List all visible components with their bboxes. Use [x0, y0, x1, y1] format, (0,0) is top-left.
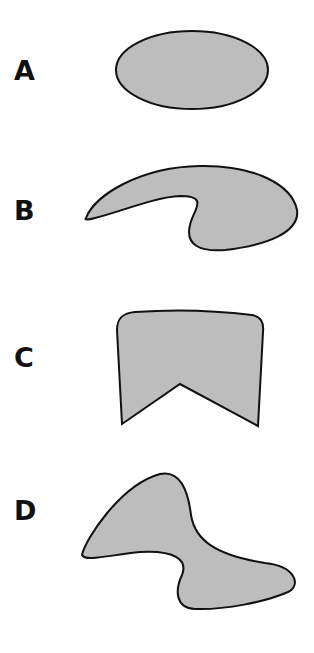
shapes-figure [0, 0, 314, 653]
shape-c-notched [117, 311, 263, 426]
shape-a-ellipse [116, 31, 268, 109]
shape-b-hook [85, 166, 297, 250]
shape-d-s-curve [82, 473, 295, 609]
